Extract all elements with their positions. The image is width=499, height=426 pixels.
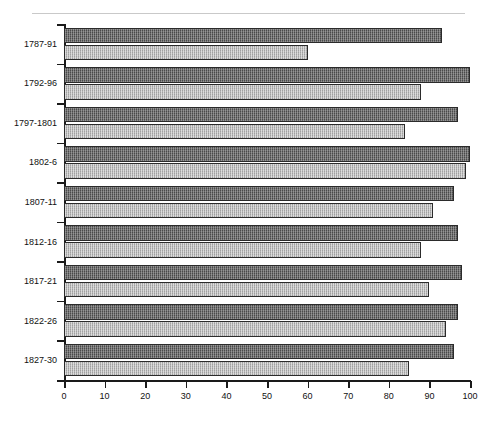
x-axis-tick-label: 10	[100, 391, 110, 401]
x-axis-tick-label: 100	[462, 391, 477, 401]
x-axis-tick-label: 80	[384, 391, 394, 401]
bar-1787-91-series-1	[64, 28, 442, 44]
category-label-1807-11: 1807-11	[25, 197, 57, 207]
bar-1812-16-series-2	[64, 242, 421, 258]
y-axis-tick	[57, 182, 66, 184]
bar-1792-96-series-1	[64, 67, 470, 83]
category-label-1797-1801: 1797-1801	[14, 118, 57, 128]
bar-1827-30-series-2	[64, 361, 409, 377]
y-axis-tick	[57, 24, 66, 26]
x-axis-tick	[267, 381, 269, 388]
bar-1797-1801-series-1	[64, 107, 458, 123]
x-axis-tick	[429, 381, 431, 388]
y-axis-tick	[57, 222, 66, 224]
x-axis-tick	[64, 381, 66, 388]
category-label-1827-30: 1827-30	[24, 355, 57, 365]
x-axis-tick-label: 90	[424, 391, 434, 401]
y-axis-tick	[57, 64, 66, 66]
x-axis-tick	[308, 381, 310, 388]
x-axis-tick-label: 60	[303, 391, 313, 401]
category-label-1787-91: 1787-91	[24, 39, 57, 49]
x-axis-tick-label: 50	[262, 391, 272, 401]
bar-1822-26-series-1	[64, 304, 458, 320]
y-axis-tick	[57, 103, 66, 105]
x-axis-tick-label: 70	[343, 391, 353, 401]
bar-chart: 1787-911792-961797-18011802-61807-111812…	[0, 0, 499, 426]
category-label-1792-96: 1792-96	[24, 78, 57, 88]
x-axis-tick	[105, 381, 107, 388]
x-axis-tick-label: 40	[221, 391, 231, 401]
bar-1827-30-series-1	[64, 344, 454, 360]
x-axis-tick-label: 30	[181, 391, 191, 401]
x-axis-tick-label: 0	[61, 391, 66, 401]
bar-1822-26-series-2	[64, 321, 446, 337]
bar-1807-11-series-1	[64, 186, 454, 202]
x-axis-tick	[145, 381, 147, 388]
x-axis-tick	[186, 381, 188, 388]
category-label-1822-26: 1822-26	[24, 316, 57, 326]
y-axis-tick	[57, 301, 66, 303]
bar-1802-6-series-2	[64, 163, 466, 179]
bar-1802-6-series-1	[64, 146, 470, 162]
x-axis-tick	[389, 381, 391, 388]
y-axis-tick	[57, 340, 66, 342]
bar-1792-96-series-2	[64, 84, 421, 100]
x-axis-tick	[226, 381, 228, 388]
bar-1817-21-series-2	[64, 282, 429, 298]
bar-1817-21-series-1	[64, 265, 462, 281]
top-rule-divider	[32, 13, 465, 14]
bar-1787-91-series-2	[64, 45, 308, 61]
bar-1797-1801-series-2	[64, 124, 405, 140]
y-axis-tick	[57, 261, 66, 263]
category-label-1802-6: 1802-6	[29, 157, 57, 167]
category-label-1817-21: 1817-21	[24, 276, 57, 286]
plot-area	[64, 24, 470, 380]
bar-1807-11-series-2	[64, 203, 433, 219]
category-label-1812-16: 1812-16	[24, 237, 57, 247]
x-axis-tick	[470, 381, 472, 388]
x-axis-tick-label: 20	[140, 391, 150, 401]
bar-1812-16-series-1	[64, 225, 458, 241]
y-axis-tick	[57, 143, 66, 145]
x-axis-tick	[348, 381, 350, 388]
